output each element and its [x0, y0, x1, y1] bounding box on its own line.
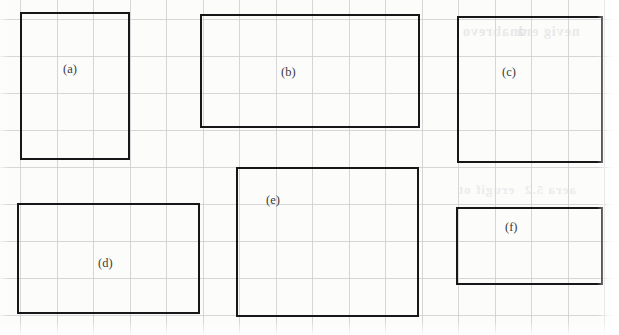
rectangle-a: [20, 12, 130, 160]
rectangle-b: [200, 14, 420, 128]
rectangle-label-a: (a): [63, 62, 77, 77]
rectangle-c: [457, 16, 603, 163]
rectangle-e: [236, 167, 419, 317]
rectangle-label-e: (e): [266, 193, 280, 208]
rectangle-label-c: (c): [502, 65, 516, 80]
rectangle-f: [456, 207, 603, 285]
rectangle-label-f: (f): [505, 220, 518, 235]
rectangle-label-b: (b): [281, 65, 296, 80]
rectangle-label-d: (d): [98, 256, 113, 271]
worksheet-page: dnabrevonevig eraerugif otaera 5.2 (a)(b…: [0, 0, 619, 335]
